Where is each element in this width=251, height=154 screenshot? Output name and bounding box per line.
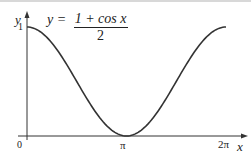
y-tick-1: 1 [18, 22, 23, 32]
y-axis-arrow-icon [25, 11, 30, 18]
cosine-curve [27, 27, 226, 136]
equation-numerator: 1 + cos x [74, 12, 128, 28]
x-tick-pi: π [120, 140, 126, 151]
x-axis-label: x [237, 140, 243, 153]
equation-denominator: 2 [97, 28, 104, 43]
x-tick-0: 0 [17, 140, 22, 150]
equation-label: y = 1 + cos x 2 [47, 12, 128, 43]
x-tick-2pi: 2π [218, 139, 229, 150]
x-axis-arrow-icon [241, 134, 248, 139]
equation-fraction: 1 + cos x 2 [74, 12, 128, 43]
equation-lhs: y = [47, 12, 70, 28]
